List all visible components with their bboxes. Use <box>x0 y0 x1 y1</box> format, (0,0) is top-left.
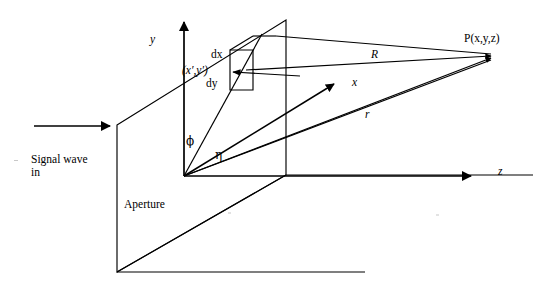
point-p-label: P(x,y,z) <box>464 32 500 45</box>
vector-r-lower-label: r <box>365 108 369 121</box>
ground-plane <box>117 175 533 272</box>
diagram-canvas: y z x P(x,y,z) R r ϕ η (x′,y′) dx dy Ape… <box>0 0 533 291</box>
differential-element <box>230 36 276 90</box>
y-axis-label: y <box>150 33 155 46</box>
element-dx-label: dx <box>211 48 223 61</box>
angle-eta-label: η <box>215 149 222 162</box>
source-point-label: (x′,y′) <box>182 64 208 77</box>
angle-phi-label: ϕ <box>186 135 194 148</box>
ray-phi <box>184 34 262 176</box>
vector-r-capital-label: R <box>371 48 378 61</box>
signal-wave-text-line1: Signal wave <box>31 153 88 165</box>
reference-line-to-p <box>276 36 491 54</box>
element-pointer-arrow <box>233 72 300 76</box>
vector-R <box>246 56 491 70</box>
signal-wave-text-line2: in <box>31 166 40 178</box>
x-axis <box>184 84 334 176</box>
aperture-label: Aperture <box>124 198 165 211</box>
z-axis-label: z <box>498 165 502 178</box>
diagram-vector-layer <box>0 0 533 291</box>
signal-wave-label: Signal wave in <box>31 153 88 179</box>
element-dy-label: dy <box>206 77 218 90</box>
scan-speck-right <box>436 214 439 216</box>
scan-speck-left <box>14 160 18 161</box>
x-axis-label: x <box>352 76 357 89</box>
scan-speck-mid <box>228 212 231 214</box>
